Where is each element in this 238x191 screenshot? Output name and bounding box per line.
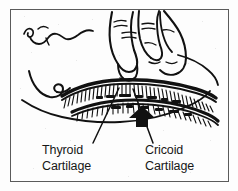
thyroid-label-line2: Cartilage bbox=[42, 159, 91, 173]
thyroid-label-line1: Thyroid bbox=[42, 143, 83, 157]
cricoid-label-line1: Cricoid bbox=[145, 143, 183, 157]
cricoid-label-line2: Cartilage bbox=[145, 159, 194, 173]
illustration-figure: Thyroid Cartilage Cricoid Cartilage bbox=[0, 0, 238, 191]
illustration-canvas: Thyroid Cartilage Cricoid Cartilage bbox=[0, 0, 238, 191]
